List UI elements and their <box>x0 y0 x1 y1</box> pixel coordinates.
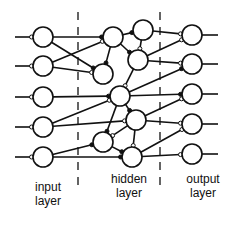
connection <box>142 155 181 157</box>
input-neuron <box>33 56 53 76</box>
connection <box>129 69 181 92</box>
hidden-neuron <box>126 110 146 130</box>
connection <box>125 69 133 86</box>
hidden-neuron <box>122 147 142 167</box>
connection <box>107 105 117 131</box>
connection <box>146 121 181 123</box>
output-layer-label: output layer <box>180 172 226 200</box>
connection <box>53 121 125 126</box>
hidden-neuron <box>133 20 153 40</box>
connection <box>53 145 92 155</box>
connection <box>141 130 182 153</box>
input-layer-label: input layer <box>28 180 68 208</box>
input-neuron <box>33 117 53 137</box>
connection <box>53 67 92 72</box>
output-neuron <box>182 144 202 164</box>
hidden-neuron <box>110 86 130 106</box>
connection <box>153 31 181 34</box>
connection <box>130 94 181 95</box>
output-neuron <box>182 84 202 104</box>
connection <box>53 96 109 97</box>
input-neuron <box>33 87 53 107</box>
connection <box>113 126 128 136</box>
connection <box>52 42 94 68</box>
input-neuron <box>33 147 53 167</box>
input-neuron <box>33 27 53 47</box>
output-neuron <box>182 114 202 134</box>
hidden-neuron <box>103 27 123 47</box>
hidden-neuron <box>93 64 113 84</box>
hidden-neuron <box>128 50 148 70</box>
connection <box>147 40 181 56</box>
connection <box>148 61 181 63</box>
output-neuron <box>182 25 202 45</box>
connection <box>145 99 181 116</box>
hidden-neuron <box>93 132 113 152</box>
connection <box>106 47 110 63</box>
hidden-layer-label: hidden layer <box>106 172 152 200</box>
connection <box>52 100 109 123</box>
output-neuron <box>182 54 202 74</box>
